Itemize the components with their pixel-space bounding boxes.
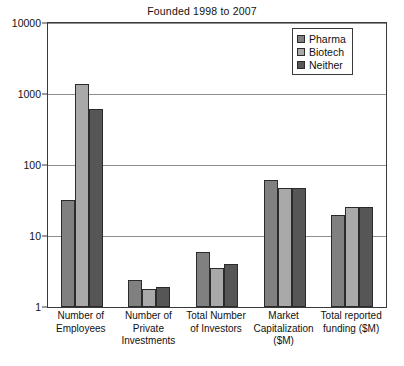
- legend-swatch-icon: [297, 61, 305, 69]
- x-axis-labels: Number ofEmployeesNumber ofPrivateInvest…: [47, 310, 385, 348]
- bar-biotech: [278, 188, 292, 307]
- y-axis-tick-label: 10000: [12, 17, 48, 29]
- y-axis-tick-label: 10: [29, 230, 48, 242]
- y-axis-tick-label: 100: [23, 159, 48, 171]
- bar-neither: [224, 264, 238, 307]
- x-axis-label-line: Number of: [116, 310, 182, 323]
- legend-label: Biotech: [309, 46, 344, 58]
- legend-item[interactable]: Neither: [297, 58, 346, 71]
- bar-biotech: [142, 289, 156, 307]
- x-axis-label: Number ofEmployees: [47, 310, 115, 348]
- x-axis-label-line: Total reported: [318, 310, 384, 323]
- bar-pharma: [128, 280, 142, 307]
- bar-pharma: [196, 252, 210, 307]
- bar-group: [48, 23, 116, 307]
- legend-label: Neither: [309, 59, 343, 71]
- x-axis-label-line: ($M): [251, 335, 317, 348]
- chart-title: Founded 1998 to 2007: [0, 5, 404, 17]
- bar-group: [183, 23, 251, 307]
- bar-neither: [156, 287, 170, 307]
- x-axis-label-line: Investments: [116, 335, 182, 348]
- bar-biotech: [345, 207, 359, 307]
- x-axis-label-line: Market: [251, 310, 317, 323]
- bar-pharma: [331, 215, 345, 307]
- bar-pharma: [61, 200, 75, 307]
- x-axis-label-line: funding ($M): [318, 323, 384, 336]
- chart-legend: PharmaBiotechNeither: [292, 28, 353, 75]
- x-axis-label: Number ofPrivateInvestments: [115, 310, 183, 348]
- bar-biotech: [75, 84, 89, 307]
- x-axis-label-line: of Investors: [183, 323, 249, 336]
- legend-label: Pharma: [309, 33, 346, 45]
- legend-item[interactable]: Biotech: [297, 45, 346, 58]
- y-axis-tick-label: 1000: [18, 88, 48, 100]
- x-axis-label-line: Capitalization: [251, 323, 317, 336]
- x-axis-label-line: Employees: [48, 323, 114, 336]
- bar-neither: [89, 109, 103, 307]
- bar-neither: [359, 207, 373, 307]
- legend-swatch-icon: [297, 48, 305, 56]
- x-axis-label: Total Numberof Investors: [182, 310, 250, 348]
- x-axis-label: MarketCapitalization($M): [250, 310, 318, 348]
- x-axis-label: Total reportedfunding ($M): [317, 310, 385, 348]
- x-axis-label-line: Private: [116, 323, 182, 336]
- x-axis-label-line: Number of: [48, 310, 114, 323]
- bar-neither: [292, 188, 306, 307]
- legend-item[interactable]: Pharma: [297, 32, 346, 45]
- legend-swatch-icon: [297, 35, 305, 43]
- bar-pharma: [264, 180, 278, 307]
- bar-group: [116, 23, 184, 307]
- bar-biotech: [210, 268, 224, 307]
- chart-container: Founded 1998 to 2007 110100100010000 Num…: [0, 0, 404, 366]
- x-axis-label-line: Total Number: [183, 310, 249, 323]
